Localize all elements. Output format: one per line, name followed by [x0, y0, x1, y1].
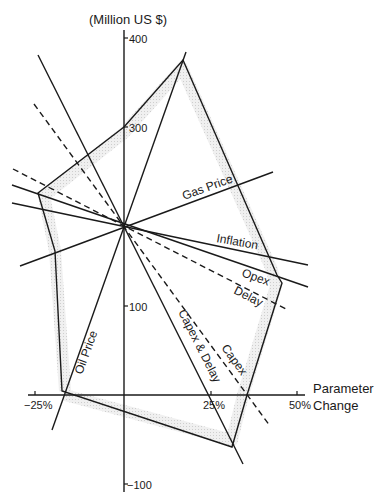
spider-chart: (Million US $) 400 300 100 −100 −25% 25%…	[0, 0, 378, 500]
x-axis-title-line2: Change	[313, 398, 359, 413]
x-axis-title-line1: Parameter	[313, 381, 374, 396]
y-tick-300: 300	[129, 122, 147, 134]
x-tick-25: 25%	[203, 399, 225, 411]
line-oil-price	[52, 52, 186, 430]
y-tick-100: 100	[129, 301, 147, 313]
x-tick-50: 50%	[289, 399, 311, 411]
y-tick-neg100: −100	[127, 479, 152, 491]
label-gas-price: Gas Price	[180, 172, 235, 203]
y-tick-400: 400	[129, 33, 147, 45]
label-capex: Capex	[219, 342, 251, 378]
label-delay: Delay	[232, 283, 266, 309]
y-axis-title: (Million US $)	[89, 12, 167, 27]
x-tick-neg25: −25%	[24, 399, 53, 411]
label-oil-price: Oil Price	[72, 328, 101, 376]
label-capex-delay: Capex & Delay	[175, 307, 224, 385]
